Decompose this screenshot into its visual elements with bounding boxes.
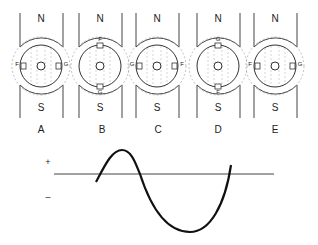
pole-n-a: N — [37, 13, 44, 24]
brush-d-top: G — [216, 36, 221, 42]
pole-s-e: S — [272, 102, 279, 113]
pole-s-b: S — [97, 102, 104, 113]
pole-n-c: N — [153, 13, 160, 24]
brush-e-right: G — [298, 61, 303, 67]
brush-e-left: F — [248, 61, 252, 67]
brush-c-left: G — [130, 61, 135, 67]
pole-s-d: S — [215, 102, 222, 113]
pole-s-a: S — [38, 102, 45, 113]
pole-n-d: N — [214, 13, 221, 24]
brush-b-bottom: G — [98, 89, 103, 95]
brush-a-right: G — [64, 61, 69, 67]
pole-s-c: S — [154, 102, 161, 113]
position-label-d: D — [214, 124, 221, 135]
position-label-c: C — [154, 124, 161, 135]
position-label-b: B — [99, 124, 106, 135]
waveform-curve — [96, 150, 231, 232]
plus-label: + — [45, 157, 50, 167]
position-label-e: E — [272, 124, 279, 135]
brush-b-top: F — [98, 36, 102, 42]
brush-c-right: F — [180, 61, 184, 67]
generator-diagram — [0, 0, 318, 245]
position-label-a: A — [38, 124, 45, 135]
minus-label: – — [45, 192, 50, 202]
pole-n-b: N — [96, 13, 103, 24]
pole-n-e: N — [271, 13, 278, 24]
brush-d-bottom: F — [216, 89, 220, 95]
brush-a-left: F — [15, 61, 19, 67]
